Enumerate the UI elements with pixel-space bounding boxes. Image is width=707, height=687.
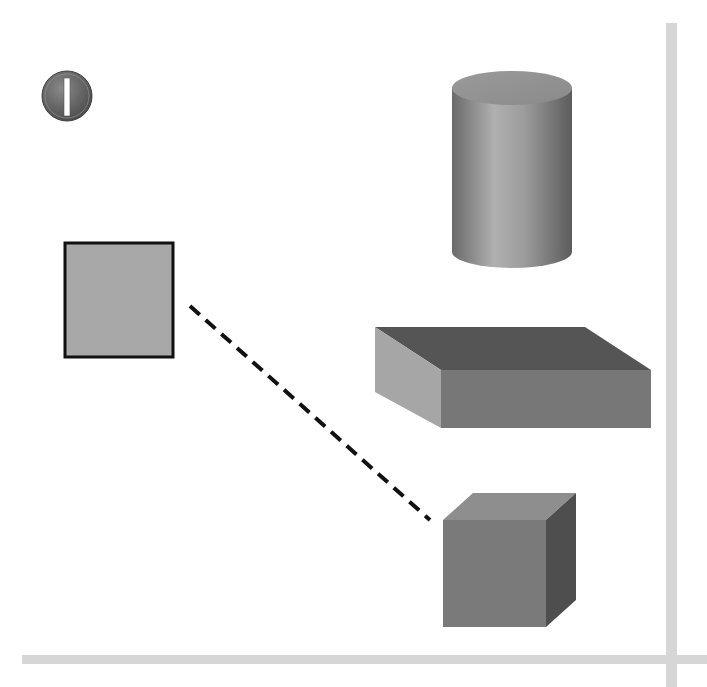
cylinder-shape — [452, 71, 572, 268]
figure-canvas — [0, 0, 707, 687]
numeral-badge-icon — [42, 71, 92, 121]
flat-square — [65, 243, 173, 357]
cube-shape — [443, 493, 576, 627]
horizontal-guide — [22, 655, 707, 664]
slab-shape — [375, 327, 651, 428]
vertical-guide — [666, 23, 677, 687]
